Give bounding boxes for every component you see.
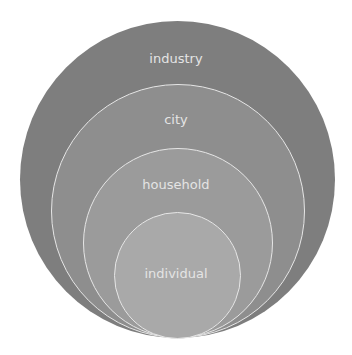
label-city: city [0,112,352,127]
label-household: household [0,177,352,192]
label-individual: individual [0,266,352,281]
label-industry: industry [0,51,352,66]
